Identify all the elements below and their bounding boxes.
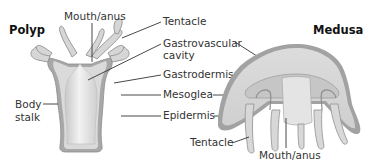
body-stalk-label-line1: Body <box>15 98 42 110</box>
body-stalk-label-line2: stalk <box>15 111 41 123</box>
gastrodermis-label: Gastrodermis <box>163 68 234 80</box>
medusa-mouth-anus-label: Mouth/anus <box>259 149 321 161</box>
gastrovascular-cavity-label-line2: cavity <box>163 49 195 61</box>
polyp-tentacles <box>31 19 129 62</box>
gastrovascular-cavity-label-line1: Gastrovascular <box>163 37 243 49</box>
medusa-illustration <box>218 44 360 153</box>
cnidarian-body-forms-diagram: Polyp Mouth/anus Body stalk Tentacle Gas… <box>0 0 370 167</box>
polyp-title: Polyp <box>9 23 45 37</box>
medusa-tentacle-label: Tentacle <box>189 136 233 148</box>
tentacle-label: Tentacle <box>162 15 206 27</box>
medusa-gastrovascular-cavity <box>282 77 312 126</box>
gastrodermis-polyp-leader <box>114 75 161 83</box>
polyp-mouth-anus-label: Mouth/anus <box>64 10 126 22</box>
tentacle-leader <box>122 22 161 38</box>
medusa-title: Medusa <box>313 23 363 37</box>
polyp-illustration <box>31 19 129 152</box>
epidermis-label: Epidermis <box>163 109 215 121</box>
mesoglea-label: Mesoglea <box>163 88 213 100</box>
